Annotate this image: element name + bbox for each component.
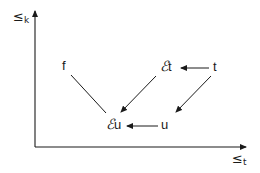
node-eps-u-prefix: ℰ	[106, 117, 114, 132]
x-axis-subscript: t	[243, 157, 247, 167]
x-axis-symbol: ≤	[232, 151, 243, 166]
y-axis-label: ≤k	[13, 10, 29, 25]
node-f: f	[62, 59, 66, 72]
edge-eps-t-to-eps-u	[121, 76, 156, 112]
node-eps-t-label: t	[168, 59, 172, 74]
diagram-canvas	[0, 0, 260, 173]
node-f-label: f	[62, 58, 66, 73]
node-u: u	[161, 118, 168, 131]
x-axis-label: ≤t	[232, 152, 246, 167]
node-eps-u: ℰu	[106, 118, 121, 132]
node-eps-u-label: u	[114, 117, 121, 132]
node-u-label: u	[161, 117, 168, 132]
edge-f-to-eps-u	[71, 75, 106, 113]
y-axis-symbol: ≤	[13, 9, 24, 24]
node-t-label: t	[213, 59, 217, 74]
node-eps-t: ℰt	[160, 60, 172, 74]
y-axis-subscript: k	[24, 15, 29, 25]
edge-t-to-u	[176, 76, 211, 112]
node-eps-t-prefix: ℰ	[160, 59, 168, 74]
node-t: t	[213, 60, 217, 73]
